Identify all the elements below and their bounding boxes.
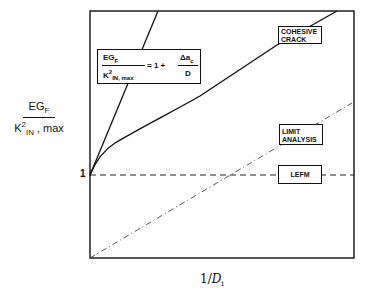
cohesive-crack-label: COHESIVE CRACK (278, 26, 322, 44)
chart-canvas (0, 0, 365, 298)
limit-analysis-label: LIMIT ANALYSIS (279, 124, 323, 145)
formula-box: EGF K2IN, max = 1 + Δac D (97, 49, 201, 84)
y-tick-one: 1 (80, 168, 86, 179)
y-axis-label: EGF K2IN , max (4, 100, 74, 137)
formula-line (90, 11, 158, 175)
lefm-label: LEFM (278, 165, 322, 184)
x-axis-label: 1/Di (200, 272, 224, 288)
